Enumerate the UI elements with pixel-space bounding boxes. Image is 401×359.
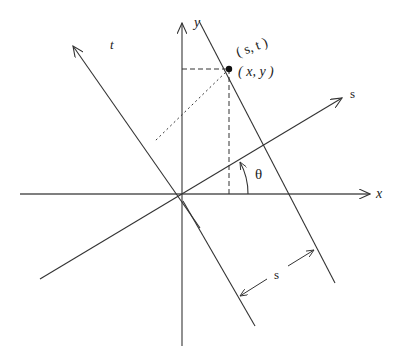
distance-label: s <box>274 267 279 282</box>
t-axis <box>73 46 200 228</box>
angle-label: θ <box>255 166 262 182</box>
rotation-diagram: x y s t ( s, t ) ( x, y ) θ s <box>0 0 401 359</box>
point-marker <box>226 66 232 72</box>
point-st-label: ( s, t ) <box>234 34 270 60</box>
x-axis-label: x <box>375 186 383 201</box>
dotted-to-t-axis <box>155 69 229 141</box>
point-xy-label: ( x, y ) <box>238 64 274 80</box>
angle-arc <box>240 162 248 194</box>
t-axis-label: t <box>110 37 114 52</box>
s-axis-label: s <box>350 86 355 101</box>
s-axis <box>40 98 342 279</box>
distance-arrow-right <box>288 250 314 266</box>
distance-arrow-left <box>240 279 267 296</box>
projection-line <box>199 21 335 283</box>
parallel-line-lower <box>183 201 255 326</box>
